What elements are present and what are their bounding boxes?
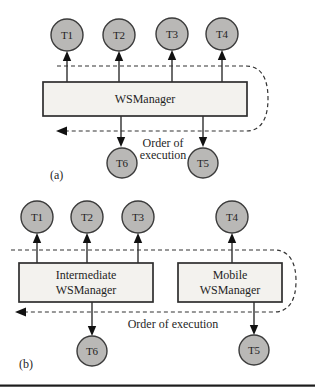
up-arrow-b-t1: [33, 233, 41, 263]
panel-b: Intermediate WSManager Mobile WSManager …: [11, 201, 296, 371]
execution-order-arrowhead-a: [56, 127, 67, 136]
panel-a: WSManager T1 T2 T3 T4 T6 T5 Order of: [43, 18, 268, 182]
up-arrow-b-t2-head: [83, 233, 91, 243]
task-node-b-t6-label: T6: [86, 345, 99, 357]
intermediate-ws-manager-label-line1: Intermediate: [56, 268, 117, 282]
task-node-b-t1-label: T1: [31, 211, 43, 223]
panel-b-caption: (b): [19, 357, 33, 371]
task-node-a-t4: T4: [206, 18, 238, 50]
mobile-ws-manager-label-line2: WSManager: [200, 283, 261, 297]
task-node-a-t6: T6: [107, 148, 137, 178]
down-arrow-b-t5: [250, 302, 258, 335]
task-node-a-t2: T2: [103, 19, 135, 51]
down-arrow-a-t6-head: [117, 137, 125, 147]
task-node-a-t1: T1: [51, 19, 83, 51]
panel-a-caption: (a): [50, 168, 63, 182]
ws-manager-label-a: WSManager: [115, 92, 176, 106]
task-node-a-t5-label: T5: [197, 157, 210, 169]
up-arrow-b-t2: [83, 233, 91, 263]
execution-order-arrowhead-b: [15, 308, 26, 317]
task-node-a-t5: T5: [188, 148, 218, 178]
workflow-diagram: WSManager T1 T2 T3 T4 T6 T5 Order of: [0, 0, 315, 389]
task-node-b-t5: T5: [239, 335, 269, 365]
down-arrow-b-t6-head: [88, 326, 96, 336]
task-node-a-t3: T3: [156, 18, 188, 50]
task-node-b-t2-label: T2: [81, 211, 93, 223]
down-arrow-b-t5-head: [250, 325, 258, 335]
task-node-a-t6-label: T6: [116, 157, 129, 169]
down-arrow-a-t5-head: [199, 137, 207, 147]
up-arrow-b-t1-head: [33, 233, 41, 243]
task-node-b-t3: T3: [122, 201, 154, 233]
up-arrow-b-t3: [134, 233, 142, 263]
up-arrow-b-t3-head: [134, 233, 142, 243]
task-node-a-t1-label: T1: [61, 29, 73, 41]
task-node-b-t5-label: T5: [248, 344, 261, 356]
task-node-b-t6: T6: [77, 336, 107, 366]
mobile-ws-manager-label-line1: Mobile: [213, 268, 248, 282]
task-node-a-t4-label: T4: [216, 28, 229, 40]
bottom-rule: [0, 385, 315, 387]
down-arrow-b-t6: [88, 302, 96, 336]
task-node-b-t3-label: T3: [132, 211, 145, 223]
up-arrow-a-t2-head: [115, 51, 123, 61]
intermediate-ws-manager-label-line2: WSManager: [56, 283, 117, 297]
task-node-a-t2-label: T2: [113, 29, 125, 41]
figure-page: WSManager T1 T2 T3 T4 T6 T5 Order of: [0, 0, 315, 389]
up-arrow-b-t4-head: [228, 233, 236, 243]
task-node-a-t3-label: T3: [166, 28, 179, 40]
up-arrow-a-t1-head: [63, 51, 71, 61]
order-of-execution-label-a-line2: execution: [140, 148, 187, 162]
task-node-b-t4: T4: [216, 201, 248, 233]
task-node-b-t4-label: T4: [226, 211, 239, 223]
up-arrow-a-t3-head: [168, 50, 176, 60]
order-of-execution-label-b: Order of execution: [128, 317, 219, 331]
task-node-b-t1: T1: [21, 201, 53, 233]
task-node-b-t2: T2: [71, 201, 103, 233]
up-arrow-b-t4: [228, 233, 236, 263]
up-arrow-a-t4-head: [218, 50, 226, 60]
